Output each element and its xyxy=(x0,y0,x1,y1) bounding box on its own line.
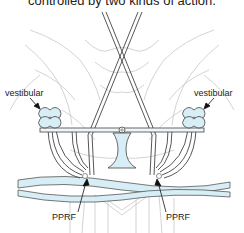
vestibular-nucleus-left xyxy=(39,108,62,129)
pprf-label-left: PPRF xyxy=(52,212,76,222)
nerve-band xyxy=(18,176,230,202)
central-stem xyxy=(108,133,136,168)
vestibular-label-right: vestibular xyxy=(194,88,233,98)
pprf-label-right: PPRF xyxy=(166,212,190,222)
vestibular-nucleus-right xyxy=(183,108,206,129)
vestibular-label-left: vestibular xyxy=(5,88,44,98)
brainstem-diagram xyxy=(0,0,244,233)
